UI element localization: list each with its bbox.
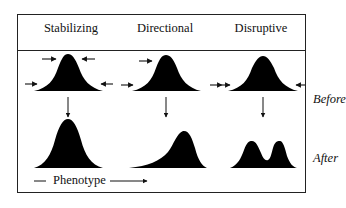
selection-curves [0,0,346,208]
directional-after-curve [129,131,207,168]
disruptive-before-curve [222,56,305,91]
phenotype-label: Phenotype [53,173,106,188]
disruptive-after-curve [230,141,297,168]
stabilizing-before-curve [25,54,113,91]
stabilizing-after-curve [34,119,103,168]
directional-before-curve [121,55,222,91]
